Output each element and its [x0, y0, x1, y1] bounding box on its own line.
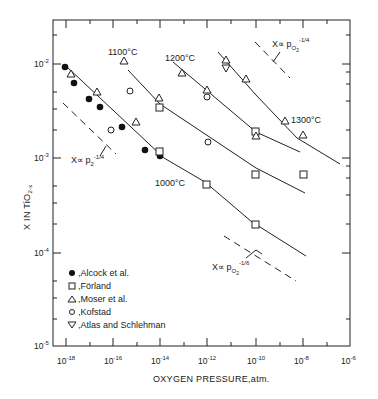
svg-text:,Alcock et al.: ,Alcock et al. — [78, 268, 129, 278]
svg-text:10-16: 10-16 — [104, 355, 123, 366]
svg-text:10-12: 10-12 — [198, 355, 217, 366]
svg-text:10-3: 10-3 — [34, 152, 49, 163]
svg-text:10-2: 10-2 — [34, 58, 49, 69]
svg-text:,Moser et al.: ,Moser et al. — [78, 294, 128, 304]
svg-text:10-10: 10-10 — [247, 355, 266, 366]
isotherm-lines — [66, 52, 340, 256]
svg-text:10-4: 10-4 — [34, 247, 49, 258]
slope-guides — [63, 42, 296, 281]
guide-label-b: X∝ pO2-1/4 — [272, 37, 310, 53]
x-tick-labels: 10-18 10-16 10-14 10-12 10-10 10-8 10-6 — [57, 355, 356, 366]
legend-marker-triangle-up — [68, 296, 76, 302]
legend-marker-triangle-down — [68, 322, 76, 328]
x-axis-title: OXYGEN PRESSURE,atm. — [153, 374, 270, 384]
label-1200c: 1200°C — [165, 53, 196, 63]
legend: ,Alcock et al. ,Förland ,Moser et al. ,K… — [68, 268, 166, 330]
series-alcock — [62, 64, 164, 160]
svg-text:,Kofstad: ,Kofstad — [78, 307, 111, 317]
legend-marker-open-square — [69, 283, 75, 289]
label-1100c: 1100°C — [108, 47, 138, 57]
svg-text:10-14: 10-14 — [151, 355, 170, 366]
svg-text:,Atlas and Schlehman: ,Atlas and Schlehman — [78, 320, 166, 330]
y-axis-title: X IN TiO2-x — [22, 184, 33, 230]
svg-text:10-5: 10-5 — [34, 340, 49, 351]
chart: 10-2 10-3 10-4 10-5 10-18 10-16 10-14 10… — [0, 0, 378, 399]
guide-label-a: X∝ p2-1/4 — [71, 154, 105, 167]
svg-text:,Förland: ,Förland — [78, 281, 111, 291]
legend-marker-open-circle — [70, 310, 75, 315]
svg-text:10-18: 10-18 — [57, 355, 76, 366]
svg-text:10-6: 10-6 — [341, 355, 356, 366]
y-tick-labels: 10-2 10-3 10-4 10-5 — [34, 58, 49, 351]
label-1300c: 1300°C — [291, 115, 322, 125]
svg-text:10-8: 10-8 — [294, 355, 309, 366]
series-atlas — [222, 65, 230, 72]
legend-marker-filled-circle — [69, 270, 75, 276]
guide-label-c: X∝ pO2-1/6 — [212, 260, 250, 276]
label-1000c: 1000°C — [155, 178, 186, 188]
series-moser — [67, 56, 307, 139]
